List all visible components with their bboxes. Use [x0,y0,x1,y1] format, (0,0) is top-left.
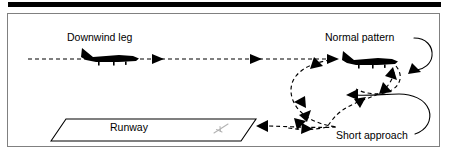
runway-group: Runway [51,119,256,141]
diagram-canvas: Runway [0,0,451,159]
runway-label: Runway [110,121,149,133]
top-divider-rule [8,2,441,7]
runway-shape [51,119,256,141]
short-approach-label: Short approach [336,129,408,141]
normal-pattern-label: Normal pattern [325,31,395,43]
downwind-leg-label: Downwind leg [67,31,133,43]
traffic-pattern-figure: Runway [0,0,451,159]
